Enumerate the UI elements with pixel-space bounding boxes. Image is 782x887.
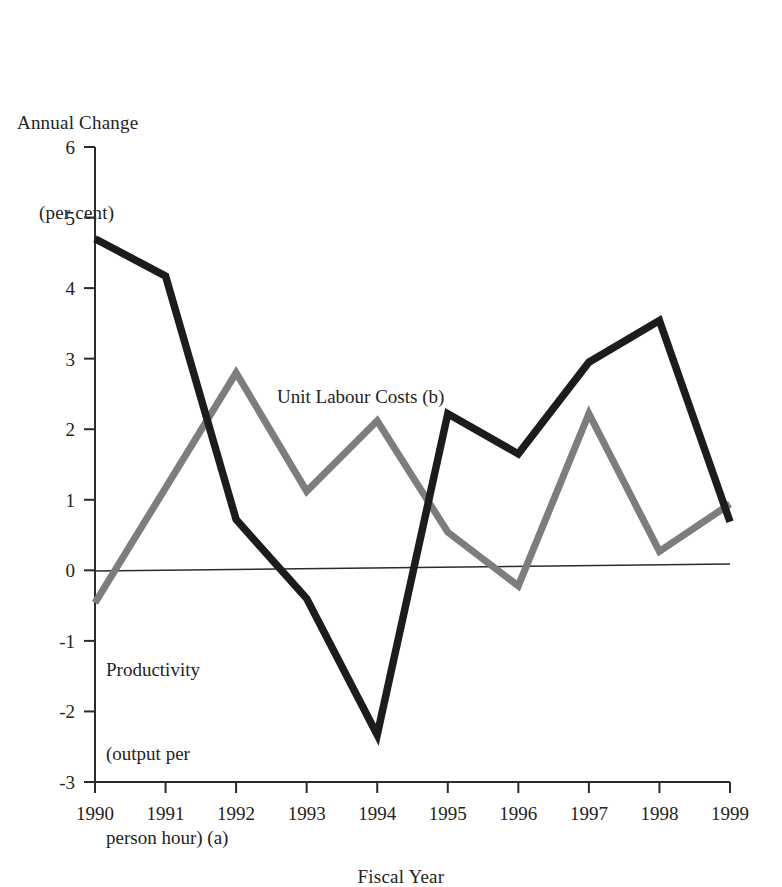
y-axis-tick-label: 5 bbox=[66, 208, 76, 229]
y-axis-tick-label: 1 bbox=[66, 490, 76, 511]
x-axis-tick-label: 1997 bbox=[570, 803, 608, 824]
y-axis-ticks: -3-2-10123456 bbox=[59, 137, 95, 793]
x-axis-title-text: Fiscal Year bbox=[358, 866, 445, 887]
y-axis-tick-label: -1 bbox=[59, 631, 75, 652]
x-axis-tick-label: 1999 bbox=[711, 803, 749, 824]
y-axis-tick-label: 3 bbox=[66, 349, 76, 370]
y-axis-tick-label: 4 bbox=[66, 278, 76, 299]
y-axis-tick-label: -3 bbox=[59, 772, 75, 793]
unit-labour-costs-label-text: Unit Labour Costs (b) bbox=[277, 386, 444, 407]
x-axis-tick-label: 1994 bbox=[358, 803, 397, 824]
productivity-label-line2: (output per bbox=[106, 740, 228, 768]
y-axis-tick-label: 2 bbox=[66, 419, 76, 440]
x-axis-tick-label: 1993 bbox=[288, 803, 326, 824]
unit-labour-costs-label: Unit Labour Costs (b) bbox=[258, 355, 444, 439]
x-axis-tick-label: 1995 bbox=[429, 803, 467, 824]
productivity-label-line1: Productivity bbox=[106, 656, 228, 684]
x-axis-tick-label: 1996 bbox=[499, 803, 537, 824]
x-axis-title: Fiscal Year bbox=[0, 844, 782, 887]
x-axis-tick-label: 1998 bbox=[640, 803, 678, 824]
y-axis-tick-label: -2 bbox=[59, 701, 75, 722]
y-axis-tick-label: 0 bbox=[66, 560, 76, 581]
y-axis-tick-label: 6 bbox=[66, 137, 76, 158]
